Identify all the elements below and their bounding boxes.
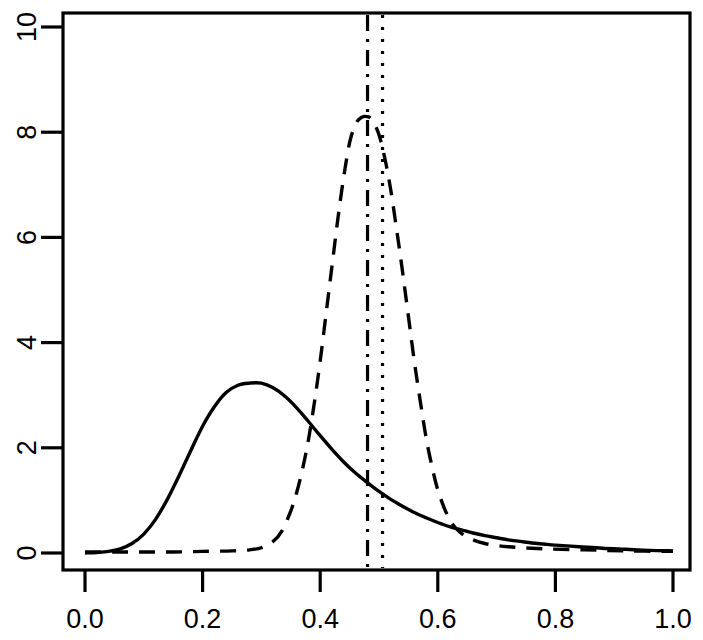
y-tick-label-1: 2 bbox=[12, 440, 42, 455]
x-tick-label-1: 0.2 bbox=[184, 604, 222, 634]
y-tick-label-3: 6 bbox=[12, 230, 42, 245]
solid-density bbox=[85, 383, 673, 553]
x-axis-ticks bbox=[85, 570, 673, 592]
y-tick-label-0: 0 bbox=[12, 545, 42, 560]
plot-border bbox=[63, 13, 690, 570]
y-axis-ticks bbox=[41, 27, 63, 553]
density-plot: 0.00.20.40.60.81.0 0246810 bbox=[0, 0, 703, 640]
x-axis-tick-labels: 0.00.20.40.60.81.0 bbox=[66, 604, 692, 634]
x-tick-label-2: 0.4 bbox=[301, 604, 339, 634]
x-tick-label-3: 0.6 bbox=[419, 604, 457, 634]
y-axis-tick-labels: 0246810 bbox=[12, 12, 42, 561]
x-tick-label-5: 1.0 bbox=[654, 604, 692, 634]
plot-frame bbox=[63, 13, 690, 570]
y-tick-label-4: 8 bbox=[12, 125, 42, 140]
x-tick-label-4: 0.8 bbox=[537, 604, 575, 634]
y-tick-label-5: 10 bbox=[12, 12, 42, 42]
chart-figure: 0.00.20.40.60.81.0 0246810 bbox=[0, 0, 703, 640]
y-tick-label-2: 4 bbox=[12, 335, 42, 350]
density-curves bbox=[85, 116, 673, 553]
x-tick-label-0: 0.0 bbox=[66, 604, 104, 634]
